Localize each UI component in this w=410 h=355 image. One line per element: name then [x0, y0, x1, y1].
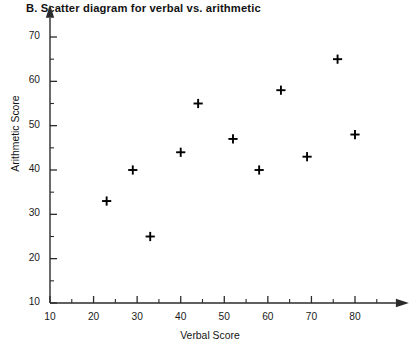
y-tick-label: 30 [14, 207, 40, 218]
data-point-markers [102, 55, 360, 242]
x-axis-title: Verbal Score [140, 330, 280, 341]
x-tick-label: 60 [255, 311, 281, 322]
x-tick-label: 70 [298, 311, 324, 322]
x-tick-label: 20 [81, 311, 107, 322]
x-tick-label: 40 [168, 311, 194, 322]
data-point [350, 130, 359, 139]
minor-tick-marks [50, 59, 377, 303]
plot-area: 10203040506070 1020304050607080 Arithmet… [0, 0, 410, 355]
y-tick-label: 20 [14, 252, 40, 263]
data-point [228, 134, 237, 143]
x-tick-label: 80 [342, 311, 368, 322]
data-point [333, 55, 342, 64]
data-point [276, 86, 285, 95]
data-point [146, 232, 155, 241]
major-tick-marks [50, 37, 355, 303]
axis-lines [46, 5, 409, 308]
x-tick-label: 10 [37, 311, 63, 322]
data-point [255, 165, 264, 174]
data-point [128, 165, 137, 174]
scatter-chart-figure: B. Scatter diagram for verbal vs. arithm… [0, 0, 410, 355]
y-tick-label: 70 [14, 30, 40, 41]
data-point [302, 152, 311, 161]
x-tick-label: 50 [211, 311, 237, 322]
x-tick-label: 30 [124, 311, 150, 322]
data-point [102, 196, 111, 205]
data-point [176, 148, 185, 157]
y-axis-title: Arithmetic Score [10, 69, 21, 199]
data-point [194, 99, 203, 108]
y-tick-label: 10 [14, 296, 40, 307]
axes-and-points [0, 0, 410, 355]
